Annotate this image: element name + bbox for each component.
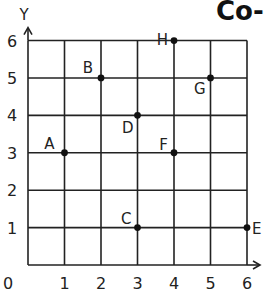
point-f-label: F [159,136,168,154]
x-tick-label: 1 [59,274,69,293]
plotted-points: ABCDEFGH [44,31,261,238]
point-d-marker [134,112,141,119]
y-tick-label: 1 [7,219,17,238]
y-tick-label: 2 [7,181,17,200]
x-tick-label: 6 [242,274,252,293]
point-e-label: E [252,220,261,238]
y-tick-label: 6 [7,32,17,51]
point-a-marker [61,149,68,156]
point-c-marker [134,224,141,231]
point-b-label: B [83,59,93,77]
x-tick-label: 2 [96,274,106,293]
grid-lines [28,41,247,265]
x-tick-label: 4 [169,274,179,293]
point-g-label: G [194,80,206,98]
point-b-marker [98,75,105,82]
coordinate-grid: YX 0123456123456 ABCDEFGH [0,0,264,293]
point-d-label: D [122,119,134,137]
point-f-marker [171,149,178,156]
point-e-marker [244,224,251,231]
y-tick-label: 5 [7,69,17,88]
point-a-label: A [44,135,55,153]
x-tick-label: 5 [205,274,215,293]
y-axis-label: Y [18,6,29,24]
tick-labels: 0123456123456 [3,32,252,293]
x-tick-label: 3 [132,274,142,293]
point-h-marker [171,37,178,44]
y-tick-label: 3 [7,144,17,163]
point-c-label: C [121,210,131,228]
y-tick-label: 4 [7,106,17,125]
point-h-label: H [157,31,168,49]
point-g-marker [207,75,214,82]
x-tick-label: 0 [3,274,13,293]
axes: YX [18,6,264,275]
